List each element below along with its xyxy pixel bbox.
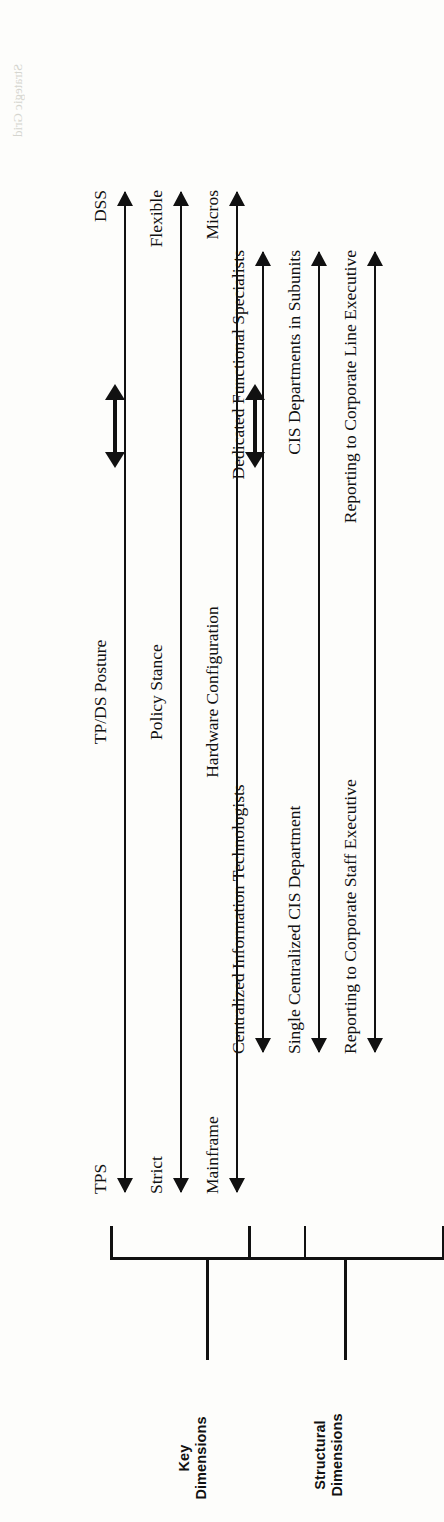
dimension-axis [318,252,320,1052]
pole-label-left: Single Centralized CIS Department [286,806,304,1054]
bracket-stem-structural-dimensions [344,1260,347,1360]
pole-label-left: Centralized Information Technologists [230,784,248,1054]
arrowhead-left-icon [367,1038,383,1053]
bracket-structural-dimensions [248,1226,444,1260]
bracket-arm-top [248,1226,251,1260]
arrowhead-right-icon [255,251,271,266]
group-label-structural-dimensions: Structural Dimensions [312,1396,346,1514]
pole-label-right: CIS Departments in Subunits [286,250,304,455]
arrowhead-left-icon [311,1038,327,1053]
arrowhead-right-icon [311,251,327,266]
arrowhead-right-icon [367,251,383,266]
dimension-row: Reporting to Corporate Staff Executive R… [362,252,388,1052]
pole-label-left: Reporting to Corporate Staff Executive [342,779,360,1054]
bracket-spine [248,1258,444,1261]
pole-label-right: Reporting to Corporate Line Executive [342,250,360,523]
dimension-row: Centralized Information Technologists De… [250,252,276,1052]
dimension-row: Single Centralized CIS Department CIS De… [306,252,332,1052]
dimension-axis [374,252,376,1052]
pole-label-right: Dedicated Functional Specialists [230,250,248,479]
arrowhead-left-icon [255,1038,271,1053]
dimension-axis [262,252,264,1052]
